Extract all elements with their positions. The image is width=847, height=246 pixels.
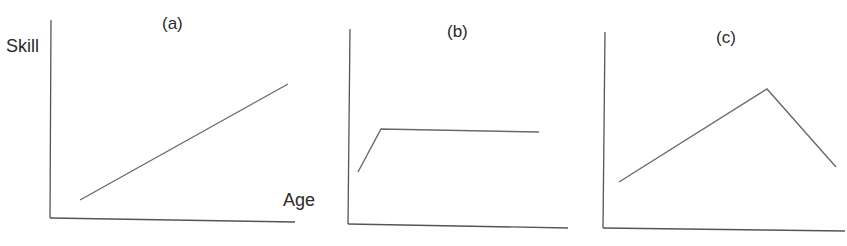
panel-a-y-axis — [50, 20, 51, 218]
panel-a — [50, 20, 295, 222]
panel-c-y-axis — [603, 32, 605, 228]
panel-b — [348, 29, 568, 228]
panel-c-x-axis — [603, 228, 845, 231]
panel-b-title: (b) — [447, 22, 468, 42]
panel-a-x-axis — [50, 218, 295, 222]
panel-b-y-axis — [348, 29, 350, 224]
panel-a-x-label: Age — [283, 190, 315, 211]
panel-a-title: (a) — [162, 14, 183, 34]
panel-c-title: (c) — [716, 28, 736, 48]
panel-c — [603, 32, 845, 231]
panel-c-skill-line — [619, 89, 836, 182]
panel-b-skill-line — [358, 129, 539, 172]
panel-a-y-label: Skill — [6, 36, 39, 57]
panel-b-x-axis — [348, 224, 568, 228]
panel-a-skill-line — [80, 84, 288, 200]
